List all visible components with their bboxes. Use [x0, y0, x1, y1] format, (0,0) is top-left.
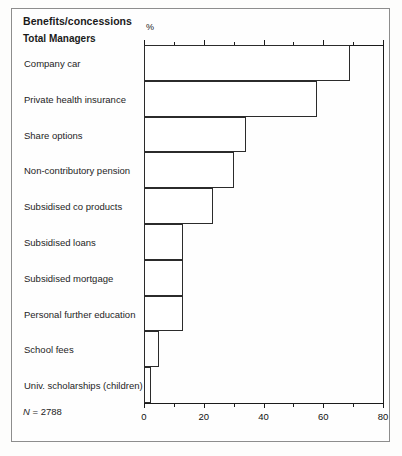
- category-label: Univ. scholarships (children): [24, 380, 143, 391]
- tick-bottom-0: [144, 403, 145, 408]
- tick-bottom-80: [383, 403, 384, 408]
- tick-bottom-minor-10: [174, 403, 175, 407]
- category-label: Subsidised mortgage: [24, 272, 113, 283]
- bar: [144, 224, 183, 260]
- category-label: Private health insurance: [24, 93, 126, 104]
- bar: [144, 188, 213, 224]
- tick-label-20: 20: [198, 411, 209, 422]
- category-label: Subsidised loans: [24, 236, 96, 247]
- bar: [144, 331, 159, 367]
- chart-page: Benefits/concessions Total Managers % 02…: [0, 0, 402, 456]
- series-title: Total Managers: [23, 33, 96, 44]
- tick-label-80: 80: [378, 411, 389, 422]
- plot-area: 020406080: [144, 45, 383, 403]
- tick-bottom-minor-70: [353, 403, 354, 407]
- category-label: Company car: [24, 57, 81, 68]
- category-label: Share options: [24, 129, 83, 140]
- axis-line-right: [383, 45, 384, 403]
- bar: [144, 81, 317, 117]
- category-label: Personal further education: [24, 308, 135, 319]
- bar: [144, 260, 183, 296]
- tick-bottom-40: [264, 403, 265, 408]
- tick-label-0: 0: [141, 411, 146, 422]
- tick-label-40: 40: [258, 411, 269, 422]
- bar: [144, 152, 234, 188]
- sample-size-value: = 2788: [30, 406, 62, 417]
- tick-top-80: [383, 40, 384, 45]
- sample-size-symbol: N: [23, 406, 30, 417]
- sample-size-note: N = 2788: [23, 406, 62, 417]
- tick-bottom-minor-30: [234, 403, 235, 407]
- bar: [144, 45, 350, 81]
- tick-label-60: 60: [318, 411, 329, 422]
- category-label: School fees: [24, 344, 74, 355]
- tick-bottom-60: [323, 403, 324, 408]
- category-label: Non-contributory pension: [24, 165, 130, 176]
- tick-top-minor-70: [353, 42, 354, 46]
- bar: [144, 367, 151, 403]
- bar: [144, 117, 246, 153]
- bar: [144, 296, 183, 332]
- axis-unit-label: %: [146, 22, 154, 32]
- tick-bottom-20: [204, 403, 205, 408]
- category-label: Subsidised co products: [24, 201, 122, 212]
- tick-bottom-minor-50: [293, 403, 294, 407]
- page-title: Benefits/concessions: [23, 15, 132, 27]
